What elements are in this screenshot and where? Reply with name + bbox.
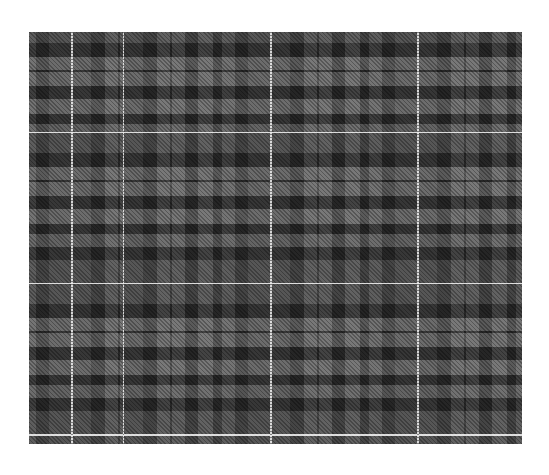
tartan-plaid-pattern (29, 32, 522, 444)
white-line-stitch (29, 32, 522, 444)
